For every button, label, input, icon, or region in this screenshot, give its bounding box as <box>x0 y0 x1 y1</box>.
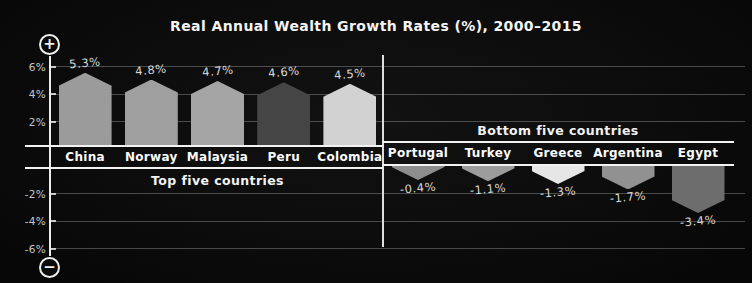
tick-label-6: 6% <box>18 61 46 73</box>
tick-label-2: 2% <box>18 116 46 128</box>
right-baseline-top <box>383 141 734 143</box>
right-baseline-bottom <box>383 164 734 166</box>
bar-value-label-colombia: 4.5% <box>334 65 367 82</box>
bar-malaysia <box>191 81 244 146</box>
bar-greece <box>532 166 585 184</box>
bar-egypt <box>672 166 725 213</box>
bar-value-label-china: 5.3% <box>69 54 102 71</box>
bar-turkey <box>462 166 515 181</box>
bar-value-label-malaysia: 4.7% <box>201 63 234 80</box>
bar-value-label-egypt: -3.4% <box>679 212 716 229</box>
left-baseline-top <box>25 145 383 147</box>
group-header-top-five: Top five countries <box>52 173 383 188</box>
axis-tick-6 <box>50 66 56 68</box>
tick-label--6: -6% <box>18 243 46 255</box>
bar-value-label-turkey: -1.1% <box>469 181 506 198</box>
country-label-egypt: Egypt <box>656 146 740 160</box>
left-baseline-bottom <box>25 167 383 169</box>
bar-value-label-argentina: -1.7% <box>609 189 646 206</box>
bar-portugal <box>392 166 445 180</box>
axis-tick--2 <box>50 193 56 195</box>
bar-value-label-norway: 4.8% <box>135 61 168 78</box>
bar-argentina <box>602 166 655 189</box>
grid-line--4 <box>52 221 745 222</box>
zoom-out-button[interactable]: − <box>39 257 60 278</box>
bar-china <box>59 73 112 146</box>
bar-value-label-peru: 4.6% <box>267 64 300 81</box>
group-header-bottom-five: Bottom five countries <box>383 123 733 138</box>
axis-tick-2 <box>50 121 56 123</box>
axis-tick--6 <box>50 248 56 250</box>
bar-value-label-greece: -1.3% <box>539 183 576 200</box>
zoom-in-button[interactable]: + <box>39 34 60 55</box>
bar-colombia <box>323 84 376 146</box>
grid-line--6 <box>52 248 745 249</box>
bar-norway <box>125 80 178 146</box>
bar-peru <box>257 82 310 145</box>
axis-tick-4 <box>50 93 56 95</box>
chart-title: Real Annual Wealth Growth Rates (%), 200… <box>0 18 752 34</box>
tick-label--2: -2% <box>18 188 46 200</box>
tick-label-4: 4% <box>18 88 46 100</box>
axis-tick--4 <box>50 220 56 222</box>
wealth-growth-chart: Real Annual Wealth Growth Rates (%), 200… <box>0 0 752 283</box>
tick-label--4: -4% <box>18 215 46 227</box>
